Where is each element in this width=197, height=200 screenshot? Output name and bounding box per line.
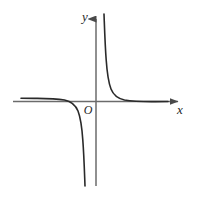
figure-canvas: y x O xyxy=(0,0,197,200)
y-axis-label: y xyxy=(80,9,88,24)
x-axis-label: x xyxy=(176,102,183,117)
hyperbola-figure: y x O xyxy=(0,0,197,200)
origin-label: O xyxy=(84,103,93,117)
curve-branch-quadrant-1 xyxy=(104,14,168,102)
curve-branch-quadrant-3 xyxy=(21,98,85,186)
